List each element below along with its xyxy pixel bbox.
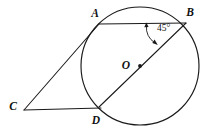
segment-cd <box>24 108 101 110</box>
label-point-d: D <box>91 114 101 126</box>
label-point-a: A <box>90 7 99 19</box>
label-center-o: O <box>122 59 130 71</box>
segment-ca <box>24 24 99 110</box>
label-point-c: C <box>9 100 17 112</box>
label-angle-45: 45° <box>157 23 171 33</box>
segment-bd <box>99 23 186 107</box>
geometry-canvas: A B C D O 45° <box>0 0 212 130</box>
center-point-dot <box>138 64 142 68</box>
label-point-b: B <box>185 6 194 18</box>
angle-arrow-lower <box>152 39 158 45</box>
segment-ab <box>99 23 186 24</box>
geometry-diagram: A B C D O 45° <box>0 0 212 130</box>
